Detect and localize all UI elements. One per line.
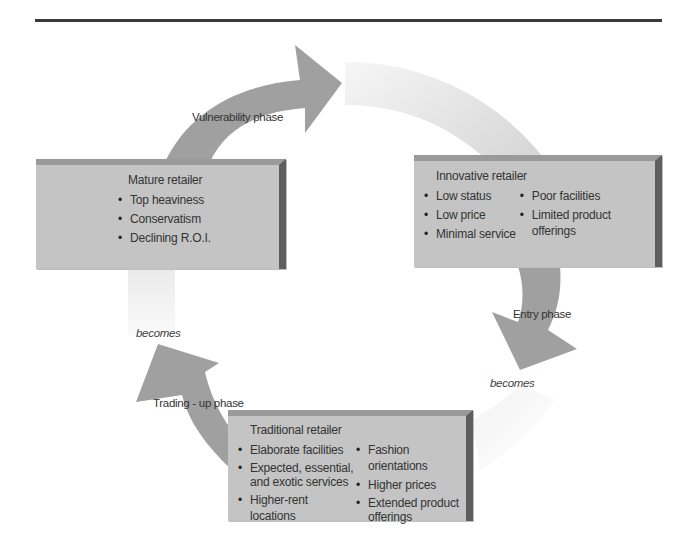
becomes-label-left: becomes [136, 327, 181, 339]
traditional-retailer-list-left: Elaborate facilities Expected, essential… [238, 442, 356, 527]
ring-segment-left [128, 270, 175, 335]
list-item: Expected, essential, and exotic services [238, 461, 356, 489]
mature-retailer-title: Mature retailer [128, 173, 279, 187]
trading-up-phase-label: Trading - up phase [153, 397, 244, 409]
list-item: Low status [424, 188, 520, 204]
traditional-retailer-box: Traditional retailer Elaborate facilitie… [228, 410, 473, 521]
list-item: Conservatism [118, 211, 279, 227]
innovative-retailer-title: Innovative retailer [436, 169, 655, 183]
list-item: Top heaviness [118, 192, 279, 208]
vulnerability-arrow [165, 45, 342, 162]
list-item: Poor facilities [520, 188, 655, 204]
list-item: Declining R.O.I. [118, 230, 279, 246]
list-item: Fashion orientations [356, 442, 461, 474]
list-item: Minimal service [424, 226, 520, 242]
list-item: Higher prices [356, 477, 461, 493]
list-item: Low price [424, 207, 520, 223]
mature-retailer-box: Mature retailer Top heaviness Conservati… [36, 159, 286, 269]
list-item: Extended product offerings [356, 496, 461, 524]
list-item: Limited product offerings [520, 207, 655, 239]
entry-phase-label: Entry phase [513, 308, 571, 320]
innovative-retailer-box: Innovative retailer Low status Low price… [414, 155, 662, 267]
becomes-label-right: becomes [490, 377, 535, 389]
list-item: Higher-rent locations [238, 492, 356, 524]
list-item: Elaborate facilities [238, 442, 356, 458]
ring-segment-bottom-right [472, 385, 555, 470]
traditional-retailer-list-right: Fashion orientations Higher prices Exten… [356, 442, 461, 527]
innovative-retailer-list-left: Low status Low price Minimal service [424, 188, 520, 245]
traditional-retailer-title: Traditional retailer [250, 423, 466, 437]
mature-retailer-list: Top heaviness Conservatism Declining R.O… [118, 192, 279, 246]
vulnerability-phase-label: Vulnerability phase [192, 111, 283, 123]
innovative-retailer-list-right: Poor facilities Limited product offering… [520, 188, 655, 245]
